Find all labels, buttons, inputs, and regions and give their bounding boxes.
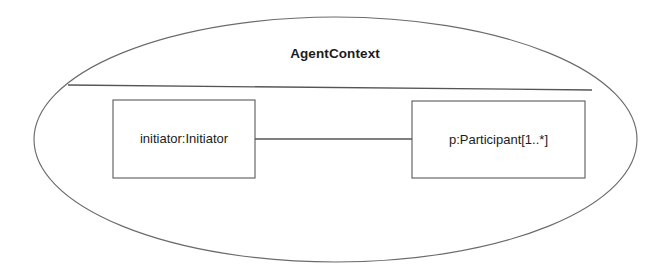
part-label-participant: p:Participant[1..*]	[412, 132, 585, 147]
part-label-initiator: initiator:Initiator	[113, 131, 255, 146]
agent-context-title: AgentContext	[0, 46, 670, 61]
diagram-canvas: AgentContext initiator:Initiator p:Parti…	[0, 0, 670, 275]
